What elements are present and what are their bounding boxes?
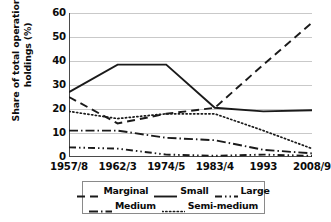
legend-item-large[interactable]: Large [215,185,270,196]
x-tick-label: 1962/3 [99,160,137,173]
y-tick-label: 40 [46,56,66,66]
x-tick-label: 1983/4 [196,160,234,173]
x-tick-label: 1957/8 [50,160,88,173]
x-tick-label: 1993 [250,160,278,173]
series-line-large [69,147,312,155]
y-tick-label: 10 [46,128,66,138]
series-line-marginal [69,23,312,124]
y-tick-label: 30 [46,80,66,90]
y-tick-label: 60 [46,8,66,18]
legend-label: Large [241,185,270,196]
y-axis-title-text: Share of total operational holdings (%) [10,0,34,121]
legend-swatch-large-icon [215,186,238,195]
legend-item-small[interactable]: Small [154,185,208,196]
x-tick-label: 1974/5 [147,160,185,173]
y-axis-title-line2: holdings (%) [22,23,33,88]
y-tick-label: 20 [46,104,66,114]
series-line-small [69,65,312,112]
legend-item-marginal[interactable]: Marginal [77,185,148,196]
legend-row: MediumSemi-medium [85,198,262,213]
legend-swatch-medium-icon [89,201,112,210]
legend-item-medium[interactable]: Medium [89,200,156,211]
legend-label: Marginal [103,185,148,196]
legend-swatch-semi-medium-icon [162,201,185,210]
y-axis-tick-labels: 6050403020100 [44,0,66,170]
plot-area [69,13,312,157]
legend-swatch-marginal-icon [77,186,100,195]
series-line-medium [69,131,312,154]
y-axis-title: Share of total operational holdings (%) [0,0,44,125]
x-tick-label: 2008/9 [293,160,331,173]
plot-svg [69,13,312,157]
legend-label: Medium [115,200,156,211]
legend-swatch-small-icon [154,186,177,195]
y-tick-label: 50 [46,32,66,42]
legend-label: Semi-medium [188,200,258,211]
x-axis-tick-labels: 1957/81962/31974/51983/419932008/9 [69,160,312,176]
legend: MarginalSmallLargeMediumSemi-medium [82,181,265,214]
legend-row: MarginalSmallLarge [85,183,262,198]
legend-label: Small [180,185,208,196]
legend-item-semi-medium[interactable]: Semi-medium [162,200,258,211]
y-axis-title-line1: Share of total operational [10,0,21,121]
